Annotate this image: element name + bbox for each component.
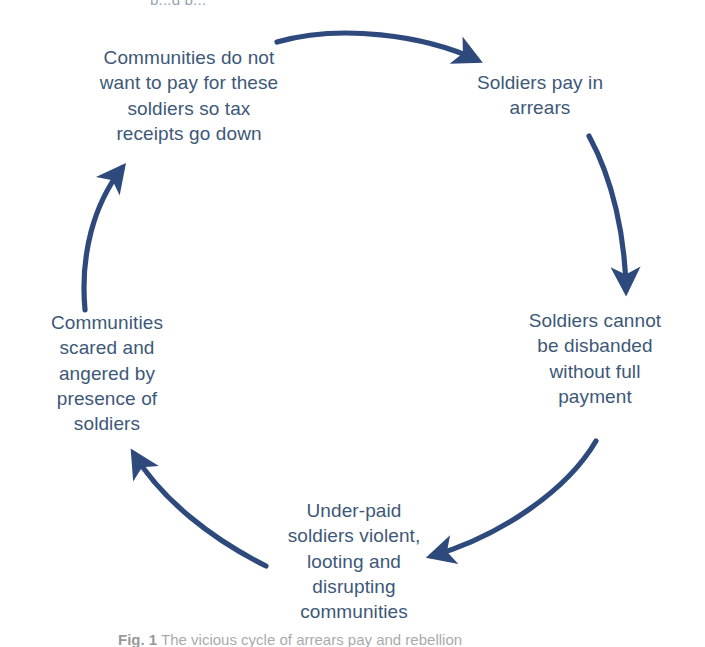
arrow-left [84, 168, 122, 310]
figure-caption-label: Fig. 1 [118, 631, 157, 647]
node-underpaid-soldiers-violent: Under-paid soldiers violent, looting and… [258, 498, 450, 624]
arrow-bottom-left [134, 454, 266, 566]
node-communities-tax: Communities do not want to pay for these… [60, 45, 318, 146]
figure-caption: Fig. 1 The vicious cycle of arrears pay … [118, 631, 698, 647]
node-soldiers-arrears: Soldiers pay in arrears [432, 70, 648, 121]
figure-caption-text: The vicious cycle of arrears pay and reb… [161, 631, 462, 647]
arrow-right [589, 136, 626, 290]
arrow-bottom-right [432, 441, 596, 556]
node-communities-scared: Communities scared and angered by presen… [12, 310, 202, 436]
figure-container: p...g p... Communities do not want to pa… [0, 0, 705, 647]
node-soldiers-cannot-disband: Soldiers cannot be disbanded without ful… [488, 308, 702, 409]
